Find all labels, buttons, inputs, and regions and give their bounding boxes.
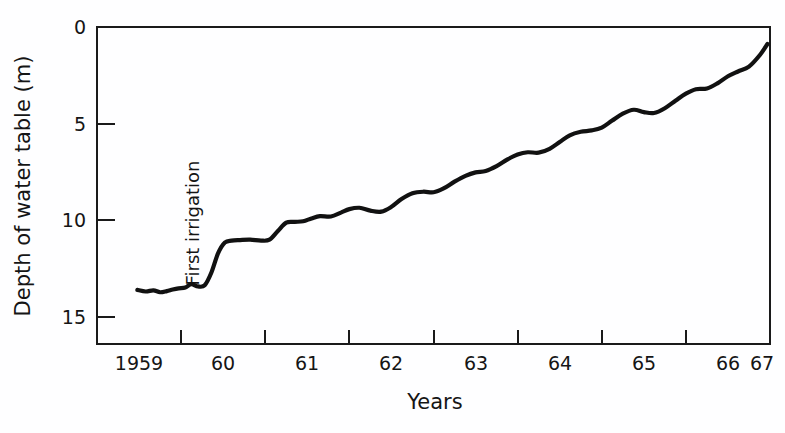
- x-axis-title: Years: [406, 390, 462, 414]
- y-axis-title: Depth of water table (m): [11, 56, 35, 317]
- x-tick-label-65: 65: [632, 352, 656, 374]
- x-tick-label-63: 63: [464, 352, 488, 374]
- first-irrigation-annotation: First irrigation: [182, 160, 203, 285]
- x-tick-label-67: 67: [750, 352, 774, 374]
- chart-figure: 0 5 10 15 1959 60 61 62 63 64 65 66 67 D…: [0, 0, 785, 433]
- y-axis-ticks: [97, 27, 115, 317]
- x-tick-label-66: 66: [716, 352, 740, 374]
- y-tick-labels: 0 5 10 15: [62, 16, 86, 328]
- y-tick-label-5: 5: [74, 113, 86, 135]
- x-tick-labels: 1959 60 61 62 63 64 65 66 67: [115, 352, 774, 374]
- y-tick-label-15: 15: [62, 306, 86, 328]
- x-tick-label-1959: 1959: [115, 352, 163, 374]
- y-tick-label-0: 0: [74, 16, 86, 38]
- y-tick-label-10: 10: [62, 209, 86, 231]
- x-tick-label-62: 62: [379, 352, 403, 374]
- water-table-depth-chart: 0 5 10 15 1959 60 61 62 63 64 65 66 67 D…: [0, 0, 785, 433]
- x-tick-label-60: 60: [211, 352, 235, 374]
- water-table-depth-line: [137, 44, 767, 292]
- x-tick-label-64: 64: [548, 352, 572, 374]
- x-axis-ticks: [97, 330, 770, 344]
- x-tick-label-61: 61: [295, 352, 319, 374]
